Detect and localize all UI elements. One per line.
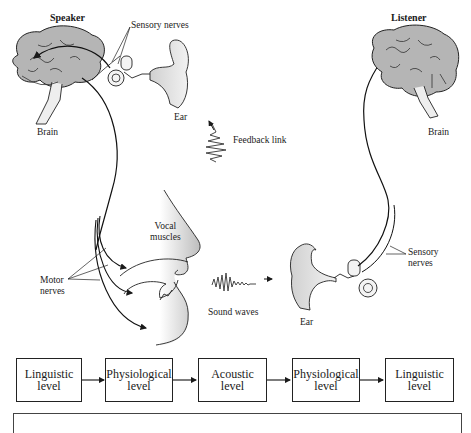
speaker-ear-icon (108, 40, 188, 108)
listener-sensory-line1: Sensory (408, 247, 439, 258)
speaker-ear-label: Ear (174, 112, 187, 123)
listener-brain-icon (372, 25, 459, 118)
listener-sensory-line2: nerves (408, 258, 439, 269)
motor-nerves-line1: Motor (40, 275, 65, 286)
level-box-acoustic: Acousticlevel (198, 358, 267, 402)
listener-ear-label: Ear (300, 317, 313, 328)
listener-ear-icon (290, 244, 377, 310)
listener-title: Listener (391, 13, 427, 24)
feedback-wave-icon (206, 124, 226, 162)
vocal-muscles-line2: muscles (150, 232, 181, 243)
motor-nerves-label: Motor nerves (40, 275, 65, 296)
level-line2: level (106, 380, 171, 393)
speaker-brain-label: Brain (37, 127, 58, 138)
level-box-linguistic-speaker: Linguisticlevel (16, 358, 82, 402)
motor-nerves-line2: nerves (40, 286, 65, 297)
bottom-frame (13, 413, 462, 433)
level-line2: level (25, 380, 74, 393)
vocal-muscles-label: Vocal muscles (150, 221, 181, 242)
sound-waves-label: Sound waves (208, 307, 258, 318)
listener-brain-label: Brain (428, 127, 449, 138)
vocal-muscles-line1: Vocal (150, 221, 181, 232)
speaker-title: Speaker (50, 13, 85, 24)
level-line2: level (395, 380, 444, 393)
level-box-physiological-speaker: Physiologicallevel (105, 358, 173, 402)
speaker-brain-icon (13, 26, 105, 124)
sound-waves-icon (212, 273, 256, 291)
speaker-sensory-nerves-label: Sensory nerves (131, 20, 189, 31)
level-box-linguistic-listener: Linguisticlevel (385, 358, 454, 402)
listener-sensory-nerves-label: Sensory nerves (408, 247, 439, 268)
level-box-physiological-listener: Physiologicallevel (292, 358, 360, 402)
feedback-link-label: Feedback link (233, 135, 287, 146)
level-line2: level (211, 380, 254, 393)
level-line2: level (293, 380, 358, 393)
